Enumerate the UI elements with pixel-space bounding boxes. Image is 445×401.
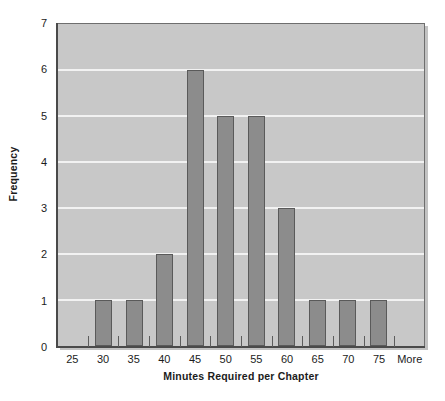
x-axis-tick-label: 55 — [241, 350, 272, 368]
y-axis-tick-label: 7 — [41, 18, 47, 29]
bar-slot — [302, 24, 333, 346]
x-axis-tick — [88, 336, 89, 347]
x-axis-tick — [333, 336, 334, 347]
x-axis-tick — [241, 336, 242, 347]
bar-slot — [89, 24, 120, 346]
x-axis-tick — [180, 336, 181, 347]
y-axis-title: Frequency — [0, 0, 26, 347]
y-axis-tick-label: 1 — [41, 295, 47, 306]
x-axis-tick-label: 60 — [272, 350, 303, 368]
y-axis-tick-label: 4 — [41, 156, 47, 167]
y-axis-title-label: Frequency — [7, 146, 19, 201]
bar[interactable] — [187, 70, 204, 346]
bar-slot — [241, 24, 272, 346]
x-axis-tick-label: 70 — [333, 350, 364, 368]
x-axis-tick-label: 40 — [149, 350, 180, 368]
x-axis-tick — [149, 336, 150, 347]
y-axis-tick-label: 6 — [41, 64, 47, 75]
histogram-figure: Frequency 01234567 253035404550556065707… — [0, 0, 445, 401]
x-axis-tick — [302, 336, 303, 347]
y-axis-tick-label: 5 — [41, 110, 47, 121]
bar-slot — [119, 24, 150, 346]
bar-slot — [211, 24, 242, 346]
x-axis-tick — [272, 336, 273, 347]
x-axis-tick-label: 30 — [88, 350, 119, 368]
x-axis-tick-label: 25 — [57, 350, 88, 368]
x-axis-tick-label: 65 — [302, 350, 333, 368]
bar[interactable] — [217, 116, 234, 346]
bar-slot — [150, 24, 181, 346]
x-axis-ticks — [57, 336, 425, 347]
x-axis-tick — [394, 336, 395, 347]
y-axis-tick-label: 2 — [41, 249, 47, 260]
bar-slot — [363, 24, 394, 346]
bar[interactable] — [248, 116, 265, 346]
x-axis-tick-label: 75 — [364, 350, 395, 368]
bar-slot — [58, 24, 89, 346]
bar-slot — [333, 24, 364, 346]
bar-slot — [394, 24, 425, 346]
x-axis-tick-label: More — [394, 350, 425, 368]
x-axis-tick — [364, 336, 365, 347]
x-axis-tick — [118, 336, 119, 347]
plot-area — [57, 23, 425, 347]
y-axis-tick-label: 3 — [41, 203, 47, 214]
bar[interactable] — [278, 208, 295, 346]
x-axis-tick-label: 35 — [118, 350, 149, 368]
y-axis-tick-label: 0 — [41, 342, 47, 353]
bar[interactable] — [156, 254, 173, 346]
bar-slot — [272, 24, 303, 346]
x-axis-tick-labels: 2530354045505560657075More — [57, 350, 425, 368]
bars-container — [58, 24, 424, 346]
y-axis-tick-labels: 01234567 — [26, 23, 52, 347]
x-axis-tick — [210, 336, 211, 347]
x-axis-tick-label: 50 — [210, 350, 241, 368]
y-axis-line — [56, 23, 58, 348]
bar-slot — [180, 24, 211, 346]
x-axis-tick-label: 45 — [180, 350, 211, 368]
x-axis-title: Minutes Required per Chapter — [57, 370, 425, 382]
